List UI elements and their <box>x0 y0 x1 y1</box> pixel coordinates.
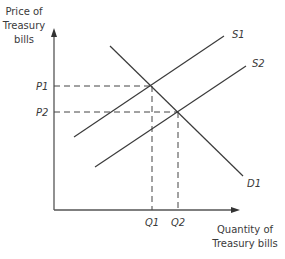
supply-curve-s2 <box>95 66 246 167</box>
x-axis-label-line1: Quantity of <box>217 224 274 235</box>
p1-label: P1 <box>36 81 48 92</box>
y-axis-arrow-icon <box>51 28 57 37</box>
d1-label: D1 <box>247 178 261 189</box>
x-axis-arrow-icon <box>231 207 240 213</box>
axes <box>51 28 240 213</box>
y-axis-label-line1: Price of <box>5 6 43 17</box>
y-axis-label-line2: Treasury <box>2 20 45 31</box>
x-axis-label-line2: Treasury bills <box>211 238 277 249</box>
y-axis-label-line3: bills <box>14 34 34 45</box>
guide-lines <box>54 86 178 210</box>
p2-label: P2 <box>36 107 48 118</box>
supply-demand-diagram: Price of Treasury bills S1 S2 D1 P1 P2 Q… <box>0 0 285 259</box>
s2-label: S2 <box>252 58 265 69</box>
demand-curve-d1 <box>110 46 243 176</box>
q1-label: Q1 <box>145 217 159 228</box>
s1-label: S1 <box>232 29 245 40</box>
q2-label: Q2 <box>171 217 185 228</box>
